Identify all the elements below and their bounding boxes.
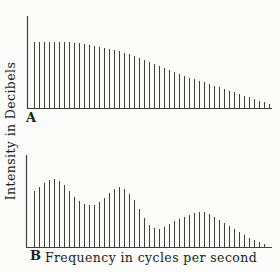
spectra-figure: Intensity in Decibels A B Frequency in c… [0, 0, 280, 272]
spectra-canvas [0, 0, 280, 272]
panel-b-label: B [30, 249, 41, 263]
x-axis-label: Frequency in cycles per second [41, 250, 261, 265]
panel-a-label: A [26, 111, 36, 125]
y-axis-label: Intensity in Decibels [3, 46, 19, 216]
